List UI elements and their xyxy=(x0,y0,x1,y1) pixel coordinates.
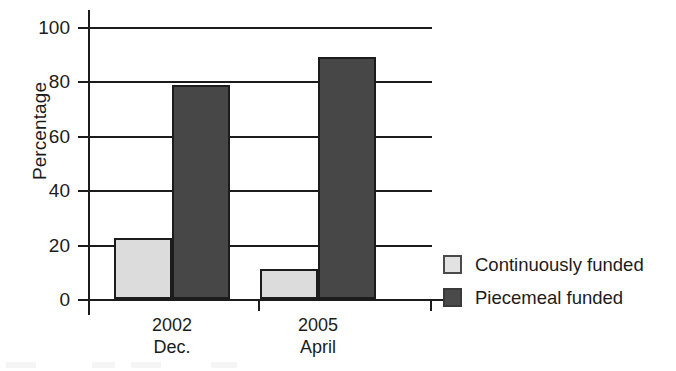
y-tick-label-80: 80 xyxy=(8,72,70,91)
bar xyxy=(260,269,318,299)
cropped-caption-remnant xyxy=(6,362,336,368)
chart-legend: Continuously fundedPiecemeal funded xyxy=(443,248,644,314)
x-group-label: 2002Dec. xyxy=(102,314,242,358)
bar xyxy=(114,238,172,299)
x-tick-mark-1 xyxy=(258,299,260,311)
bar xyxy=(172,85,230,299)
x-group-label: 2005April xyxy=(248,314,388,358)
bar xyxy=(318,57,376,299)
y-tick-label-40: 40 xyxy=(8,181,70,200)
x-group-label-month: Dec. xyxy=(102,336,242,358)
gridline-100 xyxy=(88,27,432,29)
y-tick-label-100: 100 xyxy=(8,18,70,37)
legend-swatch-light xyxy=(443,255,462,274)
x-tick-mark-2 xyxy=(430,299,432,311)
plot-area xyxy=(88,27,432,299)
x-group-label-year: 2005 xyxy=(248,314,388,336)
y-tick-label-20: 20 xyxy=(8,236,70,255)
y-tick-label-60: 60 xyxy=(8,127,70,146)
legend-item[interactable]: Continuously funded xyxy=(443,248,644,281)
gridline-40 xyxy=(88,190,432,192)
legend-label: Continuously funded xyxy=(475,255,644,274)
legend-item[interactable]: Piecemeal funded xyxy=(443,281,644,314)
x-group-label-month: April xyxy=(248,336,388,358)
legend-label: Piecemeal funded xyxy=(475,288,623,307)
x-axis-line xyxy=(88,299,443,301)
x-group-label-year: 2002 xyxy=(102,314,242,336)
gridline-60 xyxy=(88,136,432,138)
legend-swatch-dark xyxy=(443,288,462,307)
bar-chart-figure: Percentage 020406080100 2002Dec.2005Apri… xyxy=(0,0,676,371)
y-tick-label-0: 0 xyxy=(8,290,70,309)
gridline-80 xyxy=(88,81,432,83)
x-tick-mark-0 xyxy=(88,299,90,311)
